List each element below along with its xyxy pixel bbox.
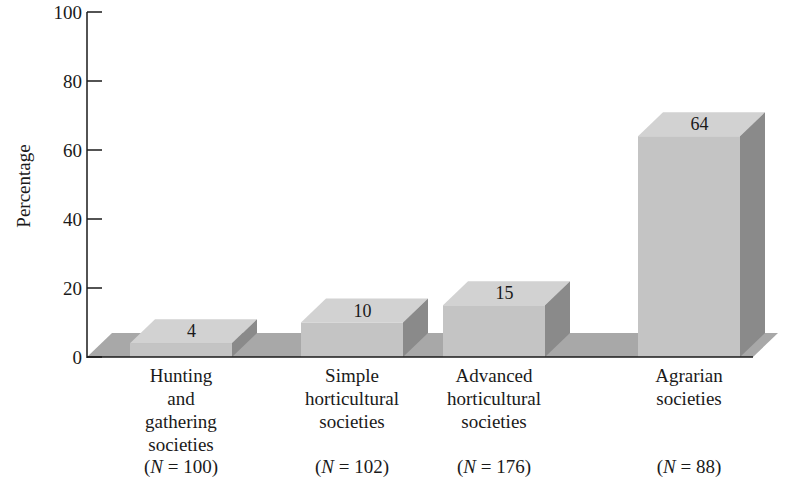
category-label: Advancedhorticulturalsocieties (409, 364, 579, 433)
bar-front (638, 136, 740, 357)
bar-value-label: 4 (187, 321, 196, 341)
bars: 4101564 (130, 112, 765, 357)
y-tick-label: 80 (63, 71, 82, 92)
sample-size-label: (N = 88) (604, 456, 774, 478)
bar-value-label: 64 (691, 114, 709, 134)
bar-front (301, 323, 403, 358)
y-tick-label: 100 (54, 2, 83, 23)
bar: 64 (638, 112, 765, 357)
category-label: Huntingandgatheringsocieties (96, 364, 266, 456)
bar-front (443, 305, 545, 357)
bar: 10 (301, 299, 428, 358)
y-tick-label: 20 (63, 278, 82, 299)
y-axis-label: Percentage (13, 144, 34, 227)
bar-front (130, 343, 232, 357)
sample-size-label: (N = 100) (96, 456, 266, 478)
bar-side (740, 112, 765, 357)
sample-size-label: (N = 176) (409, 456, 579, 478)
bar-value-label: 15 (496, 283, 514, 303)
y-tick-label: 40 (63, 209, 82, 230)
y-tick-label: 0 (73, 347, 83, 368)
bar-value-label: 10 (354, 301, 372, 321)
bar: 15 (443, 281, 570, 357)
category-label: Agrariansocieties (604, 364, 774, 410)
y-tick-label: 60 (63, 140, 82, 161)
